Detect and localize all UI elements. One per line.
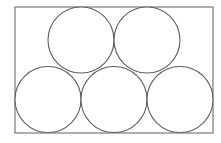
figure-root [0, 0, 221, 143]
bottom-left-circle [15, 67, 81, 133]
bottom-center-circle [81, 67, 147, 133]
geometry-figure-canvas [0, 0, 221, 143]
bottom-right-circle [147, 67, 213, 133]
top-right-circle [114, 7, 180, 73]
top-left-circle [48, 7, 114, 73]
